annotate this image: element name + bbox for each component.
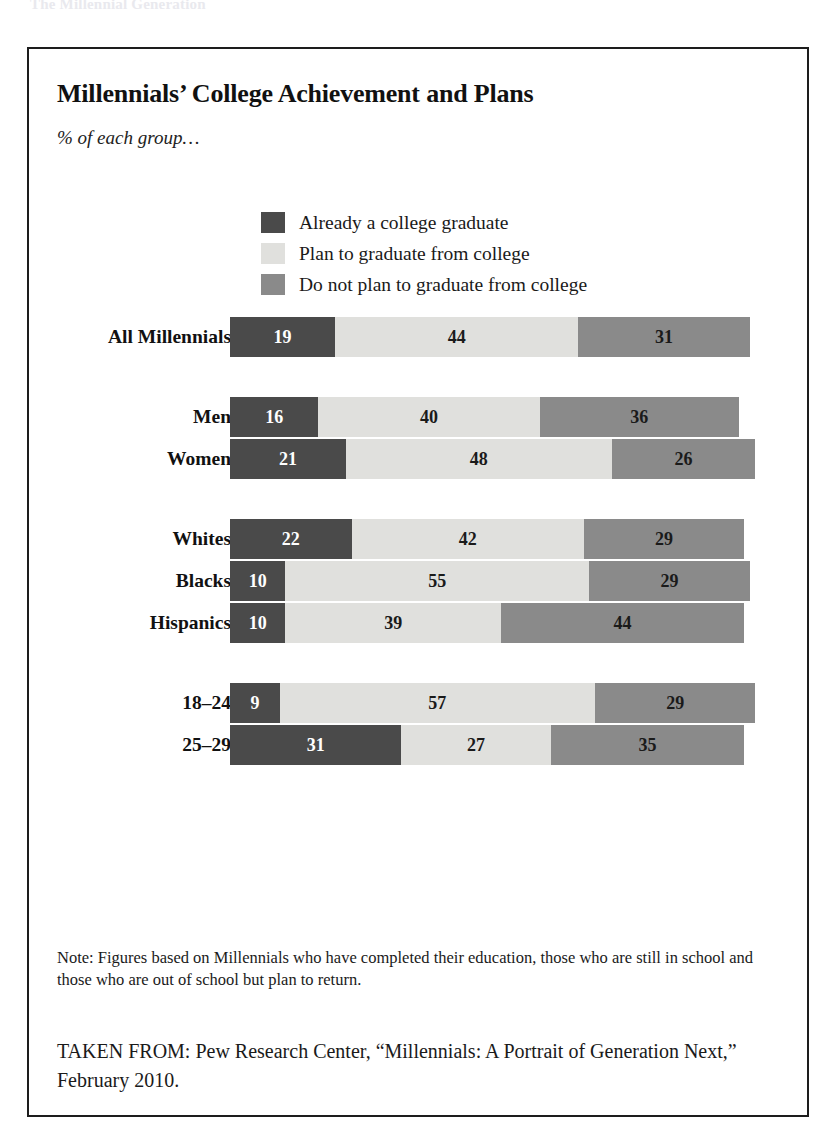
legend-swatch-plan	[261, 243, 285, 264]
bar-segment-no-plan: 29	[595, 683, 755, 723]
bar-segment-plan: 39	[285, 603, 501, 643]
stacked-bar: 224229	[230, 519, 744, 559]
bar-segment-plan: 44	[335, 317, 578, 357]
legend-item-label: Plan to graduate from college	[299, 243, 530, 265]
bar-row: 25–29312735	[29, 725, 807, 765]
stacked-bar: 214826	[230, 439, 755, 479]
bar-segment-plan: 27	[401, 725, 550, 765]
figure-container: Millennials’ College Achievement and Pla…	[27, 47, 809, 1117]
bar-row-label: All Millennials	[108, 317, 231, 357]
stacked-bar-chart: All Millennials194431Men164036Women21482…	[29, 317, 807, 767]
stacked-bar: 105529	[230, 561, 750, 601]
bar-segment-graduate: 22	[230, 519, 352, 559]
bar-segment-graduate: 19	[230, 317, 335, 357]
chart-legend: Already a college graduatePlan to gradua…	[261, 207, 587, 300]
bar-segment-plan: 40	[318, 397, 539, 437]
figure-source: TAKEN FROM: Pew Research Center, “Millen…	[57, 1037, 757, 1095]
legend-item: Plan to graduate from college	[261, 238, 587, 269]
bar-segment-no-plan: 26	[612, 439, 756, 479]
figure-title: Millennials’ College Achievement and Pla…	[57, 79, 533, 109]
bar-row: Whites224229	[29, 519, 807, 559]
bar-segment-graduate: 31	[230, 725, 401, 765]
bar-segment-no-plan: 35	[551, 725, 745, 765]
bar-row-label: Hispanics	[150, 603, 231, 643]
bar-segment-no-plan: 44	[501, 603, 744, 643]
bar-row-label: Blacks	[176, 561, 231, 601]
bar-row: Blacks105529	[29, 561, 807, 601]
legend-item-label: Do not plan to graduate from college	[299, 274, 587, 296]
legend-item: Do not plan to graduate from college	[261, 269, 587, 300]
bar-row-label: Men	[193, 397, 231, 437]
bar-row: 18–2495729	[29, 683, 807, 723]
bar-segment-plan: 57	[280, 683, 595, 723]
bar-row: All Millennials194431	[29, 317, 807, 357]
stacked-bar: 194431	[230, 317, 750, 357]
figure-note: Note: Figures based on Millennials who h…	[57, 947, 769, 992]
legend-swatch-graduate	[261, 212, 285, 233]
legend-item: Already a college graduate	[261, 207, 587, 238]
bar-segment-no-plan: 31	[578, 317, 749, 357]
bar-segment-plan: 48	[346, 439, 611, 479]
bar-segment-graduate: 10	[230, 603, 285, 643]
bar-segment-plan: 55	[285, 561, 589, 601]
bar-segment-graduate: 9	[230, 683, 280, 723]
running-head: The Millennial Generation	[30, 0, 206, 13]
bar-row-label: Women	[167, 439, 231, 479]
legend-swatch-noplan	[261, 274, 285, 295]
bar-segment-no-plan: 36	[540, 397, 739, 437]
bar-row-label: Whites	[173, 519, 232, 559]
stacked-bar: 95729	[230, 683, 755, 723]
bar-segment-graduate: 10	[230, 561, 285, 601]
bar-row-label: 18–24	[182, 683, 231, 723]
stacked-bar: 103944	[230, 603, 744, 643]
bar-segment-no-plan: 29	[584, 519, 744, 559]
bar-segment-graduate: 16	[230, 397, 318, 437]
stacked-bar: 312735	[230, 725, 744, 765]
figure-subtitle: % of each group…	[57, 127, 199, 149]
bar-row: Women214826	[29, 439, 807, 479]
bar-segment-no-plan: 29	[589, 561, 749, 601]
legend-item-label: Already a college graduate	[299, 212, 509, 234]
bar-segment-graduate: 21	[230, 439, 346, 479]
bar-segment-plan: 42	[352, 519, 584, 559]
stacked-bar: 164036	[230, 397, 739, 437]
bar-row: Men164036	[29, 397, 807, 437]
bar-row: Hispanics103944	[29, 603, 807, 643]
bar-row-label: 25–29	[182, 725, 231, 765]
